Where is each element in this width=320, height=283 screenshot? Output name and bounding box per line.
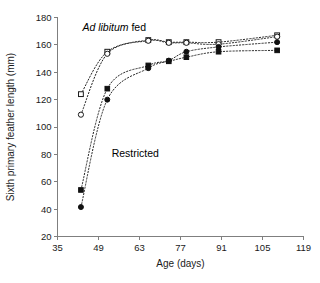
data-point-marker [184,40,189,45]
x-axis-tick-label: 105 [255,242,271,253]
data-point-marker [184,49,189,54]
x-axis-tick-label: 63 [134,242,145,253]
y-axis-title: Sixth primary feather length (mm) [5,53,16,201]
annotation-italic-text: Ad libitum [81,21,128,33]
x-axis: 3549637791105119 [52,237,311,253]
data-point-marker [105,51,110,56]
data-point-marker [146,38,151,43]
data-point-marker [275,34,280,39]
y-axis-tick-label: 100 [36,121,52,132]
data-point-marker [275,40,280,45]
annotation-plain-text: fed [129,21,147,33]
series-line [81,35,277,94]
y-axis-tick-label: 60 [41,176,52,187]
x-axis-tick-label: 91 [216,242,227,253]
y-axis-tick-label: 140 [36,67,52,78]
y-axis-tick-label: 40 [41,204,52,215]
y-axis-tick-label: 80 [41,149,52,160]
data-point-marker [216,44,221,49]
x-axis-title: Age (days) [156,258,204,269]
x-axis-tick-label: 77 [175,242,186,253]
data-point-marker [184,55,189,60]
data-point-marker [166,58,171,63]
x-axis-tick-label: 119 [296,242,311,253]
data-point-marker [78,205,83,210]
data-point-marker [105,97,110,102]
data-point-marker [166,40,171,45]
y-axis-tick-label: 20 [41,231,52,242]
y-axis-tick-label: 180 [36,12,52,23]
data-point-marker [79,188,84,193]
series-lines [81,35,277,207]
series-line [81,37,277,115]
y-axis-tick-label: 120 [36,94,52,105]
chart-canvas: 20406080100120140160180 3549637791105119… [0,0,320,283]
data-point-marker [216,49,221,54]
data-point-marker [275,48,280,53]
y-axis-tick-label: 160 [36,39,52,50]
data-point-marker [105,86,110,91]
series-line [81,42,277,207]
x-axis-tick-label: 35 [52,242,63,253]
data-point-marker [78,112,83,117]
y-axis: 20406080100120140160180 [36,12,58,242]
feather-growth-chart-figure: 20406080100120140160180 3549637791105119… [0,0,320,283]
data-point-marker [146,66,151,71]
data-point-marker [79,92,84,97]
ad-libitum-label: Ad libitum fed [81,21,146,33]
annotation-plain-text: Restricted [112,147,159,159]
restricted-label: Restricted [112,147,159,159]
x-axis-tick-label: 49 [93,242,104,253]
series-markers [78,33,279,210]
series-line [81,50,277,190]
